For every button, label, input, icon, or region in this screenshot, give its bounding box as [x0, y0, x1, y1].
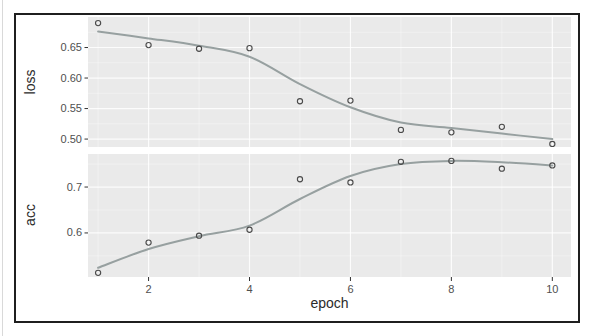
x-tick-label: 6	[335, 283, 365, 296]
x-tick-label: 8	[436, 283, 466, 296]
y-tick-label: 0.65	[38, 41, 82, 54]
chart-canvas	[0, 0, 597, 336]
y-tick-label: 0.7	[38, 181, 82, 194]
loss-panel-background	[88, 17, 571, 147]
y-tick-label: 0.6	[38, 226, 82, 239]
acc-panel-background	[88, 154, 571, 277]
x-tick-label: 2	[134, 283, 164, 296]
y-tick-label: 0.55	[38, 102, 82, 115]
x-tick-label: 10	[537, 283, 567, 296]
acc-panel	[85, 154, 572, 277]
x-axis-title: epoch	[88, 295, 571, 311]
loss-panel	[85, 17, 572, 147]
y-tick-label: 0.60	[38, 72, 82, 85]
y-axis-title-acc: acc	[22, 204, 38, 226]
figure: loss acc epoch 0.650.600.550.500.70.6246…	[0, 0, 597, 336]
x-tick-label: 4	[235, 283, 265, 296]
y-tick-label: 0.50	[38, 133, 82, 146]
y-axis-title-loss: loss	[22, 70, 38, 95]
